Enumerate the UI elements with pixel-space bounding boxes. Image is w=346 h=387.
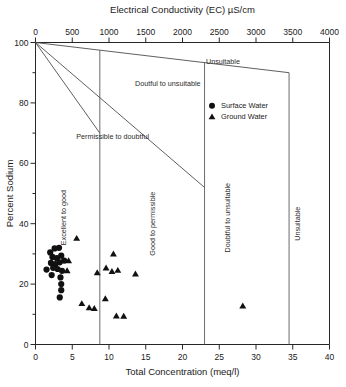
left-axis-ticklabel: 100 bbox=[14, 38, 28, 48]
zone-label-6: Unsuitable bbox=[293, 207, 302, 241]
data-point-ground-water bbox=[120, 313, 127, 319]
data-point-ground-water bbox=[132, 271, 139, 277]
boundary-good-permissible-mid bbox=[36, 43, 205, 188]
zone-label-5: Doubtful to unsuitable bbox=[223, 183, 232, 253]
left-axis-ticklabel: 0 bbox=[24, 340, 29, 350]
zone-label-0: Unsuitable bbox=[206, 57, 240, 66]
legend-label-ground-water: Ground Water bbox=[221, 112, 268, 121]
top-axis-ticklabel: 3500 bbox=[283, 27, 302, 37]
data-point-surface-water bbox=[56, 245, 62, 251]
data-point-ground-water bbox=[86, 304, 93, 310]
zone-label-1: Doutful to unsuitable bbox=[135, 79, 201, 88]
bottom-axis-ticklabel: 40 bbox=[325, 352, 335, 362]
left-axis-title: Percent Sodium bbox=[4, 160, 15, 228]
data-point-ground-water bbox=[114, 267, 121, 273]
top-axis-ticklabel: 2000 bbox=[173, 27, 192, 37]
bottom-axis-ticklabel: 15 bbox=[141, 352, 151, 362]
left-axis-ticklabel: 60 bbox=[19, 158, 29, 168]
boundary-excellent-good-upper bbox=[36, 43, 290, 73]
bottom-axis-ticklabel: 5 bbox=[70, 352, 75, 362]
top-axis-ticklabel: 4000 bbox=[320, 27, 339, 37]
data-point-ground-water bbox=[73, 235, 80, 241]
top-axis-ticklabel: 500 bbox=[65, 27, 79, 37]
top-axis-ticklabel: 2500 bbox=[210, 27, 229, 37]
data-point-ground-water bbox=[113, 313, 120, 319]
zone-label-2: Permissible to doubtful bbox=[76, 132, 149, 141]
bottom-axis-title: Total Concentration (meq/l) bbox=[125, 366, 239, 377]
data-point-ground-water bbox=[110, 251, 117, 257]
legend-marker-ground-water bbox=[209, 114, 216, 120]
data-point-ground-water bbox=[239, 303, 246, 309]
top-axis-ticklabel: 0 bbox=[33, 27, 38, 37]
data-point-ground-water bbox=[103, 264, 110, 270]
data-point-surface-water bbox=[49, 272, 55, 278]
data-point-ground-water bbox=[102, 295, 109, 301]
top-axis-ticklabel: 1500 bbox=[136, 27, 155, 37]
wilcox-diagram: Electrical Conductivity (EC) µS/cm 05001… bbox=[0, 0, 346, 387]
left-axis-ticklabel: 20 bbox=[19, 279, 29, 289]
top-axis-ticklabel: 1000 bbox=[100, 27, 119, 37]
bottom-axis-ticklabel: 35 bbox=[288, 352, 298, 362]
top-axis-ticklabel: 3000 bbox=[247, 27, 266, 37]
left-axis-ticklabel: 40 bbox=[19, 219, 29, 229]
bottom-axis-ticklabel: 10 bbox=[104, 352, 114, 362]
legend-label-surface-water: Surface Water bbox=[221, 101, 268, 110]
boundary-permissible-doubtful-lower bbox=[36, 43, 100, 134]
top-axis-title: Electrical Conductivity (EC) µS/cm bbox=[110, 4, 255, 15]
data-point-surface-water bbox=[43, 267, 49, 273]
data-point-ground-water bbox=[91, 305, 98, 311]
data-point-surface-water bbox=[58, 281, 64, 287]
data-point-ground-water bbox=[78, 300, 85, 306]
left-axis-ticklabel: 80 bbox=[19, 98, 29, 108]
chart-canvas: Electrical Conductivity (EC) µS/cm 05001… bbox=[0, 0, 346, 387]
bottom-axis-ticklabel: 25 bbox=[215, 352, 225, 362]
data-point-surface-water bbox=[58, 287, 64, 293]
bottom-axis-ticklabel: 0 bbox=[33, 352, 38, 362]
bottom-axis-ticklabel: 30 bbox=[251, 352, 261, 362]
data-point-ground-water bbox=[108, 268, 115, 274]
data-point-surface-water bbox=[57, 274, 63, 280]
legend-marker-surface-water bbox=[209, 103, 215, 109]
zone-label-3: Excellent to good bbox=[59, 190, 68, 245]
data-point-surface-water bbox=[57, 294, 63, 300]
bottom-axis-ticklabel: 20 bbox=[178, 352, 188, 362]
zone-label-4: Good to permissible bbox=[148, 192, 157, 256]
